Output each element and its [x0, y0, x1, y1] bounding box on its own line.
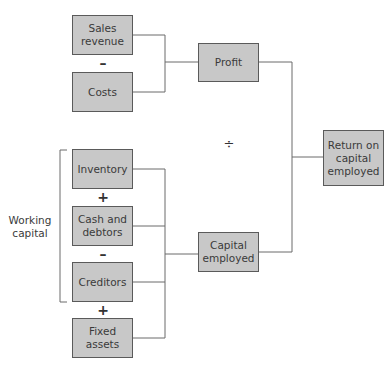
- roce-label: Return on capital employed: [327, 139, 381, 178]
- cash-debtors-label: Cash and debtors: [78, 213, 128, 239]
- profit-label: Profit: [215, 56, 242, 69]
- profit-box: Profit: [198, 43, 259, 82]
- cash-debtors-box: Cash and debtors: [72, 206, 133, 246]
- plus-operator: +: [93, 303, 113, 317]
- inventory-box: Inventory: [72, 149, 133, 189]
- fixed-assets-label: Fixed assets: [83, 325, 123, 351]
- capital-employed-label: Capital employed: [201, 239, 257, 265]
- costs-box: Costs: [72, 72, 133, 112]
- sales-revenue-label: Sales revenue: [81, 22, 125, 48]
- sales-revenue-box: Sales revenue: [72, 15, 133, 55]
- minus-operator: –: [93, 56, 113, 70]
- creditors-box: Creditors: [72, 262, 133, 302]
- costs-label: Costs: [88, 86, 117, 99]
- minus-operator: –: [93, 247, 113, 261]
- capital-employed-box: Capital employed: [198, 232, 259, 272]
- inventory-label: Inventory: [77, 163, 127, 176]
- working-capital-label: Working capital: [6, 214, 54, 240]
- fixed-assets-box: Fixed assets: [72, 318, 133, 358]
- roce-box: Return on capital employed: [323, 130, 384, 186]
- plus-operator: +: [93, 190, 113, 204]
- creditors-label: Creditors: [79, 276, 127, 289]
- divide-operator: ÷: [219, 137, 239, 151]
